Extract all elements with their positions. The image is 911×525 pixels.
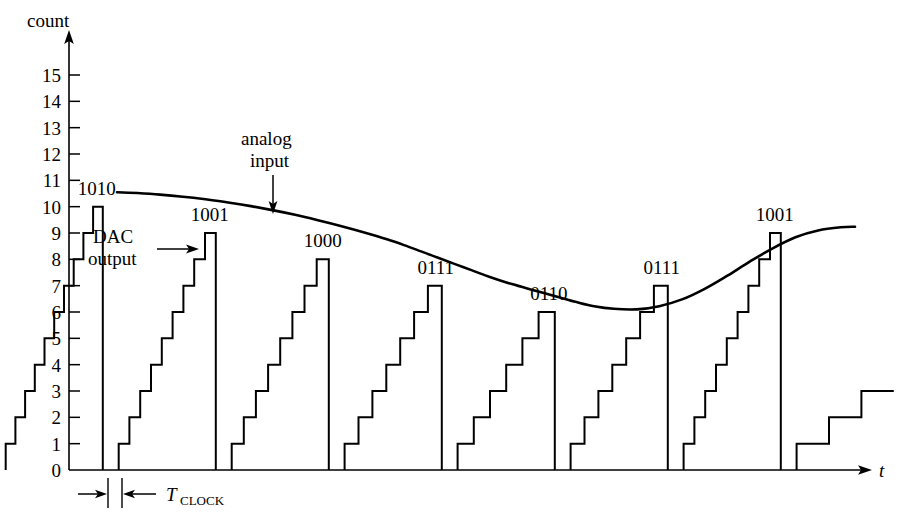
digital-code-label: 0111 <box>644 257 681 278</box>
dac-output-annotation: DAC output <box>88 226 199 269</box>
digital-code-label: 0111 <box>418 257 455 278</box>
y-tick-label: 1 <box>52 434 62 455</box>
chart-canvas: 0123456789101112131415 count t 101010011… <box>0 0 911 525</box>
y-axis-tick-labels: 0123456789101112131415 <box>42 65 62 481</box>
y-tick-label: 10 <box>42 197 61 218</box>
y-tick-label: 0 <box>52 460 62 481</box>
y-tick-label: 15 <box>42 65 61 86</box>
digital-code-label: 1000 <box>304 230 342 251</box>
digital-code-label: 1001 <box>756 204 794 225</box>
dac-output-label-line2: output <box>88 248 137 269</box>
tclock-dimension: T CLOCK <box>78 478 225 508</box>
analog-input-annotation: analog input <box>241 128 292 214</box>
dac-output-staircase <box>6 207 894 470</box>
y-tick-label: 7 <box>52 276 62 297</box>
y-tick-label: 13 <box>42 118 61 139</box>
y-tick-label: 4 <box>52 355 62 376</box>
axes-group <box>64 30 872 475</box>
digital-code-label: 1001 <box>191 204 229 225</box>
tclock-label-base: T <box>166 484 178 505</box>
y-tick-label: 2 <box>52 407 62 428</box>
y-tick-label: 3 <box>52 381 62 402</box>
analog-input-label-line1: analog <box>241 128 292 149</box>
adc-ramp-timing-figure: 0123456789101112131415 count t 101010011… <box>0 0 911 525</box>
y-tick-label: 9 <box>52 223 62 244</box>
tclock-label-subscript: CLOCK <box>180 493 225 508</box>
x-axis-title: t <box>879 460 885 481</box>
y-tick-label: 12 <box>42 144 61 165</box>
digital-code-label: 1010 <box>78 178 116 199</box>
analog-input-label-line2: input <box>250 150 290 171</box>
y-tick-label: 8 <box>52 249 62 270</box>
dac-output-label-line1: DAC <box>93 226 133 247</box>
y-axis-title: count <box>27 10 70 31</box>
digital-code-label: 0110 <box>530 283 567 304</box>
y-tick-label: 14 <box>42 91 62 112</box>
y-tick-label: 11 <box>43 170 61 191</box>
